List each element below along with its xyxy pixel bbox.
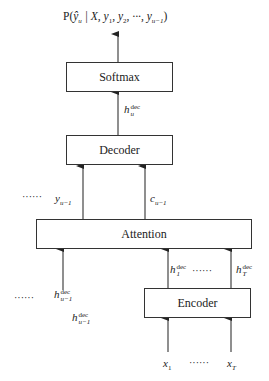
decoder-box: Decoder — [66, 135, 173, 165]
h-dec-u-label: hdecu — [124, 104, 140, 117]
h-dec-u-minus-1-a-sub: u−1 — [61, 296, 73, 303]
output-yu-sub: u−1 — [152, 17, 164, 25]
h-dec-T-base: h — [236, 263, 242, 275]
h-dec-u-minus-1-label-b: hdecu−1 — [72, 312, 90, 325]
output-sep2: , ···, y — [127, 10, 152, 22]
softmax-box: Softmax — [66, 62, 173, 92]
x-1-sub: 1 — [168, 364, 172, 372]
encoder-box: Encoder — [144, 288, 251, 318]
y-prev-sub: u−1 — [60, 199, 72, 207]
x-T-sub: T — [232, 364, 236, 372]
h-dec-u-sub: u — [131, 111, 141, 118]
output-prefix: P( — [63, 10, 73, 22]
attention-box: Attention — [36, 219, 252, 249]
h-dec-u-minus-1-b-sub: u−1 — [79, 319, 91, 326]
h-dec-u-base: h — [124, 103, 130, 115]
h-dec-u-minus-1-a-base: h — [54, 288, 60, 300]
h-dec-1-label: hdec1 — [170, 264, 186, 277]
h-dec-u-minus-1-b-base: h — [72, 311, 78, 323]
h-dec-1-sub: 1 — [177, 271, 187, 278]
ellipsis-encoder-outputs: ······ — [192, 266, 212, 276]
h-dec-u-minus-1-label-a: hdecu−1 — [54, 289, 72, 302]
c-prev-sub: u−1 — [155, 199, 167, 207]
ellipsis-left-top: ······ — [22, 192, 42, 202]
x-1-label: x1 — [163, 358, 171, 372]
ellipsis-left-bottom: ······ — [14, 293, 34, 303]
softmax-label: Softmax — [99, 70, 140, 85]
ellipsis-encoder-inputs: ······ — [189, 358, 209, 368]
h-dec-T-sub: T — [243, 271, 253, 278]
y-prev-label: yu−1 — [55, 193, 72, 207]
h-dec-1-base: h — [170, 263, 176, 275]
c-prev-label: cu−1 — [150, 193, 167, 207]
attention-label: Attention — [121, 227, 166, 242]
encoder-label: Encoder — [178, 296, 218, 311]
output-close: ) — [163, 10, 167, 22]
h-dec-T-label: hdecT — [236, 264, 252, 277]
decoder-label: Decoder — [99, 143, 140, 158]
output-probability-label: P(ŷu | X, y1, y2, ···, yu−1) — [63, 11, 167, 25]
output-rest: | X, y — [82, 10, 109, 22]
x-T-label: xT — [227, 358, 236, 372]
output-sep1: , y — [112, 10, 123, 22]
